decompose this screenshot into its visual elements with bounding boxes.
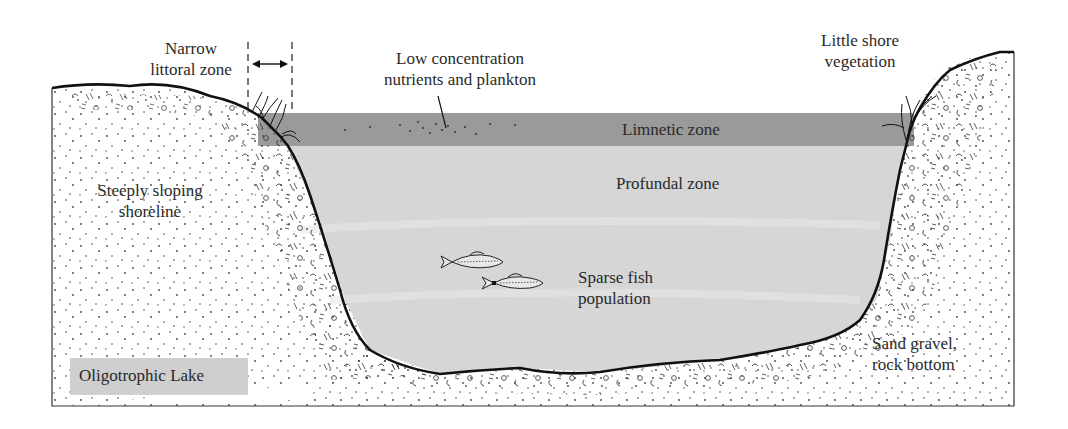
shore-veg-line2: vegetation <box>790 51 930 72</box>
narrow-littoral-line2: littoral zone <box>136 59 246 80</box>
shore-vegetation-label: Little shore vegetation <box>790 30 930 72</box>
nutrients-line1: Low concentration <box>360 48 560 69</box>
legend-box: Oligotrophic Lake <box>70 358 248 395</box>
limnetic-zone-label: Limnetic zone <box>622 119 720 140</box>
double-arrow-icon <box>252 60 288 68</box>
fish-population-label: Sparse fish population <box>578 267 653 309</box>
bottom-line1: Sand gravel, <box>872 333 957 354</box>
oligotrophic-lake-diagram: Narrow littoral zone Low concentration n… <box>0 0 1068 429</box>
bottom-line2: rock bottom <box>872 354 957 375</box>
limnetic-zone <box>258 113 914 146</box>
bottom-label: Sand gravel, rock bottom <box>872 333 957 375</box>
shore-veg-line1: Little shore <box>790 30 930 51</box>
narrow-littoral-label: Narrow littoral zone <box>136 38 246 80</box>
fish-line2: population <box>578 288 653 309</box>
narrow-littoral-line1: Narrow <box>136 38 246 59</box>
nutrients-line2: nutrients and plankton <box>360 69 560 90</box>
fish-line1: Sparse fish <box>578 267 653 288</box>
profundal-zone <box>288 146 906 374</box>
legend-label: Oligotrophic Lake <box>79 366 204 386</box>
shoreline-line2: shoreline <box>70 201 230 222</box>
shoreline-line1: Steeply sloping <box>70 180 230 201</box>
shoreline-label: Steeply sloping shoreline <box>70 180 230 222</box>
profundal-zone-label: Profundal zone <box>616 173 719 194</box>
nutrients-label: Low concentration nutrients and plankton <box>360 48 560 90</box>
